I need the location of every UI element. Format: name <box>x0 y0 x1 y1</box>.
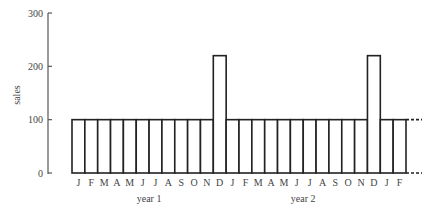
bar <box>188 120 201 173</box>
bars <box>72 56 422 173</box>
bar <box>213 56 226 173</box>
y-tick-label: 100 <box>28 114 43 125</box>
bar <box>355 120 368 173</box>
x-tick-label: F <box>243 177 249 188</box>
x-tick-label: S <box>333 177 339 188</box>
group-labels: year 1year 2 <box>137 193 316 204</box>
bar <box>278 120 291 173</box>
x-tick-label: J <box>295 177 299 188</box>
bar <box>85 120 98 173</box>
bar <box>393 120 406 173</box>
y-axis-label: sales <box>11 85 22 105</box>
bar <box>316 120 329 173</box>
x-tick-label: A <box>319 177 327 188</box>
bar <box>200 120 213 173</box>
x-tick-label: A <box>165 177 173 188</box>
bar <box>111 120 124 173</box>
bar <box>162 120 175 173</box>
x-tick-label: O <box>190 177 197 188</box>
y-tick-label: 300 <box>28 8 43 19</box>
x-tick-label: J <box>231 177 235 188</box>
sales-bar-chart: 0100200300 JFMAMJJASONDJFMAMJJASONDJF ye… <box>0 0 436 215</box>
bar <box>329 120 342 173</box>
x-tick-label: M <box>125 177 134 188</box>
y-tick-label: 0 <box>38 168 43 179</box>
x-tick-label: J <box>141 177 145 188</box>
x-tick-label: J <box>308 177 312 188</box>
x-tick-label: J <box>385 177 389 188</box>
group-label: year 2 <box>291 193 316 204</box>
x-tick-label: M <box>100 177 109 188</box>
x-tick-label: O <box>345 177 352 188</box>
x-tick-label: S <box>178 177 184 188</box>
bar <box>380 120 393 173</box>
bar <box>303 120 316 173</box>
x-tick-label: J <box>76 177 80 188</box>
y-tick-label: 200 <box>28 61 43 72</box>
x-tick-label: M <box>254 177 263 188</box>
y-axis: 0100200300 <box>28 8 52 179</box>
bar <box>342 120 355 173</box>
x-tick-label: N <box>203 177 210 188</box>
bar <box>290 120 303 173</box>
bar <box>72 120 85 173</box>
bar <box>175 120 188 173</box>
x-axis-labels: JFMAMJJASONDJFMAMJJASONDJF <box>76 177 402 188</box>
x-tick-label: J <box>154 177 158 188</box>
bar <box>149 120 162 173</box>
x-tick-label: N <box>357 177 364 188</box>
x-tick-label: A <box>267 177 275 188</box>
x-tick-label: D <box>216 177 223 188</box>
bar <box>367 56 380 173</box>
x-tick-label: D <box>370 177 377 188</box>
bar <box>226 120 239 173</box>
x-tick-label: F <box>88 177 94 188</box>
x-tick-label: M <box>280 177 289 188</box>
bar <box>98 120 111 173</box>
bar <box>239 120 252 173</box>
bar <box>123 120 136 173</box>
bar <box>265 120 278 173</box>
bar <box>136 120 149 173</box>
group-label: year 1 <box>137 193 162 204</box>
x-tick-label: F <box>397 177 403 188</box>
bar <box>252 120 265 173</box>
x-tick-label: A <box>113 177 121 188</box>
